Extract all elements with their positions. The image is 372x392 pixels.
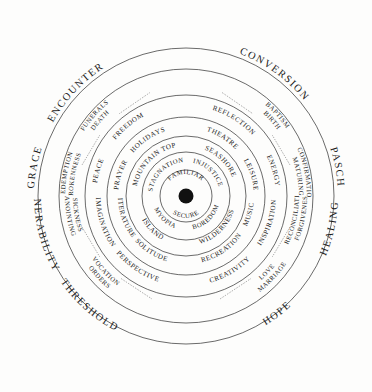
outer-label-healing: HEALING: [317, 200, 340, 256]
center-dot-icon: [179, 189, 194, 204]
divider-sickness-anointing: [82, 227, 100, 257]
wheel-diagram: FAMILIAR SECURE STAGNATION INJUSTICE BOR…: [0, 0, 372, 392]
ring6-label-confirmation: CONFIRMATION: [0, 0, 313, 198]
concentric-ring-diagram: FAMILIAR SECURE STAGNATION INJUSTICE BOR…: [0, 0, 372, 392]
ring1-label-familiar: FAMILIAR: [166, 168, 206, 182]
ring6-label-forgiveness: FORGIVENESS: [0, 0, 308, 241]
ring2-label-boredom: BOREDOM: [191, 203, 219, 230]
ring1-label-secure: SECURE: [172, 208, 200, 219]
ring4-label-music: MUSIC: [241, 202, 255, 228]
ring5-label-energy: ENERGY: [265, 154, 282, 187]
ring5-label-inspiration: INSPIRATION: [256, 199, 278, 247]
outer-label-vulnerability: VULNERABILITY: [0, 0, 63, 274]
outer-label-conversion: CONVERSION: [239, 45, 312, 102]
ring2-label-myopia: MYOPIA: [153, 206, 177, 229]
divider-vocation-orders: [121, 279, 152, 300]
outer-label-hope: HOPE: [261, 299, 293, 328]
divider-love-marriage: [220, 279, 251, 300]
ring5-label-imagination: IMAGINATION: [94, 197, 117, 248]
ring5-label-freedom: FREEDOM: [111, 111, 145, 141]
ring5-label-peace: PEACE: [91, 157, 106, 184]
divider-funerals-death: [120, 93, 151, 114]
